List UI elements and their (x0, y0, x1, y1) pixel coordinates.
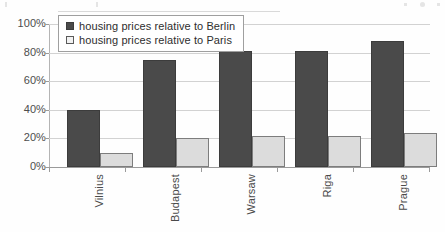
bar-prague-paris (404, 133, 437, 167)
x-axis-label-riga: Riga (321, 174, 333, 197)
x-axis-tick (49, 167, 50, 172)
x-axis-ticks (49, 167, 430, 173)
bar-riga-berlin (295, 51, 328, 167)
y-axis-tick-label: 20% (4, 131, 46, 143)
x-axis-tick (125, 167, 126, 172)
x-axis-labels: Vilnius Budapest Warsaw Riga Prague (49, 174, 430, 232)
x-axis-label-warsaw: Warsaw (245, 174, 257, 215)
x-axis-label-budapest: Budapest (169, 174, 181, 222)
x-axis-tick (353, 167, 354, 172)
x-axis-tick (277, 167, 278, 172)
legend-label: housing prices relative to Berlin (79, 20, 235, 32)
bar-budapest-berlin (143, 60, 176, 167)
bar-warsaw-berlin (219, 51, 252, 167)
legend-swatch-icon (66, 36, 74, 44)
bar-chart: 100% 80% 60% 40% 20% 0% (0, 0, 445, 232)
chart-screenshot: 100% 80% 60% 40% 20% 0% (0, 0, 445, 232)
bar-riga-paris (328, 136, 361, 167)
x-axis-tick (201, 167, 202, 172)
legend-item-paris: housing prices relative to Paris (66, 33, 235, 47)
legend-label: housing prices relative to Paris (79, 34, 232, 46)
y-axis-tick-label: 60% (4, 74, 46, 86)
bar-warsaw-paris (252, 136, 285, 167)
bar-prague-berlin (371, 41, 404, 167)
y-axis-labels: 100% 80% 60% 40% 20% 0% (0, 24, 46, 167)
x-axis-label-vilnius: Vilnius (93, 174, 105, 208)
y-axis-tick-label: 0% (4, 160, 46, 172)
y-axis-tick-label: 100% (4, 17, 46, 29)
legend-swatch-icon (66, 22, 74, 30)
legend-item-berlin: housing prices relative to Berlin (66, 19, 235, 33)
chart-legend: housing prices relative to Berlin housin… (58, 15, 244, 52)
bar-vilnius-berlin (67, 110, 100, 167)
bar-budapest-paris (176, 138, 209, 167)
y-axis-tick-label: 80% (4, 46, 46, 58)
bar-vilnius-paris (100, 153, 133, 167)
y-axis-tick-label: 40% (4, 103, 46, 115)
x-axis-tick (429, 167, 430, 172)
x-axis-label-prague: Prague (397, 174, 409, 211)
